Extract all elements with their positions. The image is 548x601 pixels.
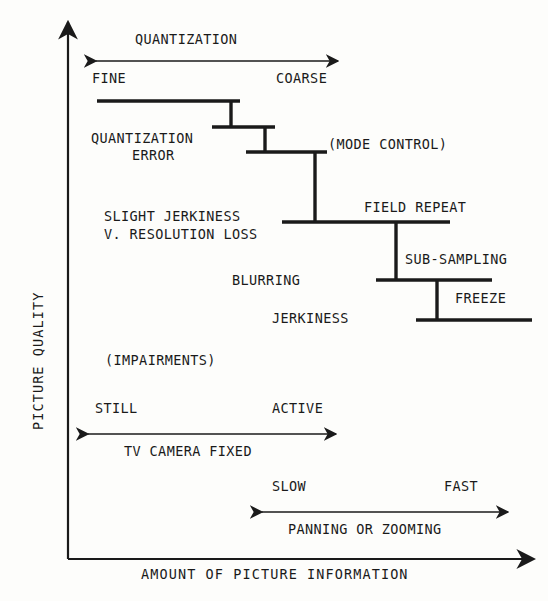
annotation-quantization-error-line2: ERROR — [132, 147, 175, 164]
annotation-quantization-error-line1: QUANTIZATION — [91, 130, 193, 147]
step-label-freeze: FREEZE — [455, 290, 506, 307]
y-axis-label: PICTURE QUALITY — [30, 292, 47, 430]
panning-zooming-scale-right-label: FAST — [444, 478, 478, 495]
step-label-sub-sampling: SUB-SAMPLING — [405, 251, 507, 268]
annotation-slight-jerkiness-line2: V. RESOLUTION LOSS — [104, 226, 258, 243]
tv-camera-scale-title: TV CAMERA FIXED — [124, 443, 252, 460]
panning-zooming-scale-title: PANNING OR ZOOMING — [288, 521, 442, 538]
quantization-scale-title: QUANTIZATION — [135, 31, 237, 48]
annotation-slight-jerkiness-line1: SLIGHT JERKINESS — [104, 208, 240, 225]
annotation-mode-control: (MODE CONTROL) — [328, 136, 447, 153]
panning-zooming-scale-left-label: SLOW — [272, 478, 306, 495]
tv-camera-scale-left-label: STILL — [95, 400, 138, 417]
annotation-impairments: (IMPAIRMENTS) — [105, 352, 216, 369]
quantization-scale-left-label: FINE — [92, 70, 126, 87]
tv-camera-scale-right-label: ACTIVE — [272, 400, 323, 417]
quantization-scale-right-label: COARSE — [276, 70, 327, 87]
annotation-blurring: BLURRING — [232, 272, 300, 289]
step-label-field-repeat: FIELD REPEAT — [364, 199, 466, 216]
annotation-jerkiness: JERKINESS — [272, 310, 349, 327]
x-axis-label: AMOUNT OF PICTURE INFORMATION — [141, 566, 409, 583]
